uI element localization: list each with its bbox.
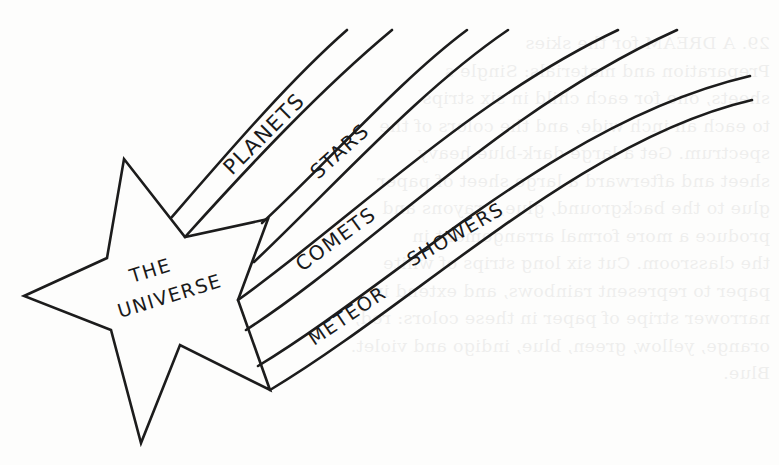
book-page: 29. A DREAM for the skies Preparation an… (0, 0, 779, 465)
band-comets: COMETS (238, 30, 677, 330)
shooting-star-diagram: PLANETS STARS COMETS METEOR SHOWERS THE … (0, 0, 779, 465)
band-comets-lower-edge (246, 30, 677, 330)
band-planets-label: PLANETS (219, 88, 310, 179)
star-label-line1: THE (126, 253, 174, 287)
band-stars-label: STARS (305, 118, 374, 183)
